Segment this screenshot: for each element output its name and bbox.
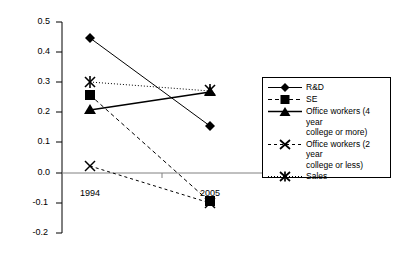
legend-key-diamond-icon bbox=[266, 82, 304, 93]
legend-key-x-icon bbox=[266, 139, 304, 150]
legend-label-sales: Sales bbox=[304, 171, 327, 182]
chart-container: 0.5 0.4 0.3 0.2 0.1 0.0 -0.1 -0.2 1994 2… bbox=[0, 0, 412, 264]
legend-key-square-icon bbox=[266, 94, 304, 105]
y-tick-label-3: 0.2 bbox=[24, 107, 50, 116]
chart-legend: R&D SE Office workers (4 year college or… bbox=[262, 77, 391, 178]
marker-office4yr-2005 bbox=[204, 86, 216, 96]
legend-label-se: SE bbox=[304, 94, 317, 105]
legend-key-star-icon bbox=[266, 171, 304, 182]
legend-item-sales[interactable]: Sales bbox=[266, 171, 387, 182]
y-tick-label-6: -0.1 bbox=[22, 198, 48, 207]
y-axis-ticks bbox=[56, 22, 62, 233]
marker-se-1994 bbox=[85, 90, 95, 100]
y-tick-label-1: 0.4 bbox=[24, 47, 50, 56]
series-line-se bbox=[90, 95, 210, 202]
x-tick-label-1994: 1994 bbox=[70, 189, 110, 198]
x-tick-label-2005: 2005 bbox=[190, 189, 230, 198]
legend-item-se[interactable]: SE bbox=[266, 94, 387, 105]
y-tick-label-2: 0.3 bbox=[24, 77, 50, 86]
legend-label-office-4yr: Office workers (4 year college or more) bbox=[304, 106, 387, 138]
legend-label-rd: R&D bbox=[304, 82, 324, 93]
legend-label-office-2yr: Office workers (2 year college or less) bbox=[304, 139, 387, 171]
y-tick-label-4: 0.1 bbox=[24, 137, 50, 146]
legend-item-office-2yr[interactable]: Office workers (2 year college or less) bbox=[266, 139, 387, 171]
legend-key-triangle-icon bbox=[266, 106, 304, 117]
legend-item-rd[interactable]: R&D bbox=[266, 82, 387, 93]
series-line-rd bbox=[90, 38, 210, 126]
marker-rd-2005 bbox=[205, 121, 215, 131]
series-line-office-4yr bbox=[90, 92, 210, 110]
legend-item-office-4yr[interactable]: Office workers (4 year college or more) bbox=[266, 106, 387, 138]
y-tick-label-0: 0.5 bbox=[24, 17, 50, 26]
marker-office2yr-1994 bbox=[85, 161, 95, 171]
y-tick-label-7: -0.2 bbox=[22, 228, 48, 237]
y-tick-label-5: 0.0 bbox=[24, 168, 50, 177]
marker-rd-1994 bbox=[85, 33, 95, 43]
series-line-sales bbox=[90, 82, 210, 91]
